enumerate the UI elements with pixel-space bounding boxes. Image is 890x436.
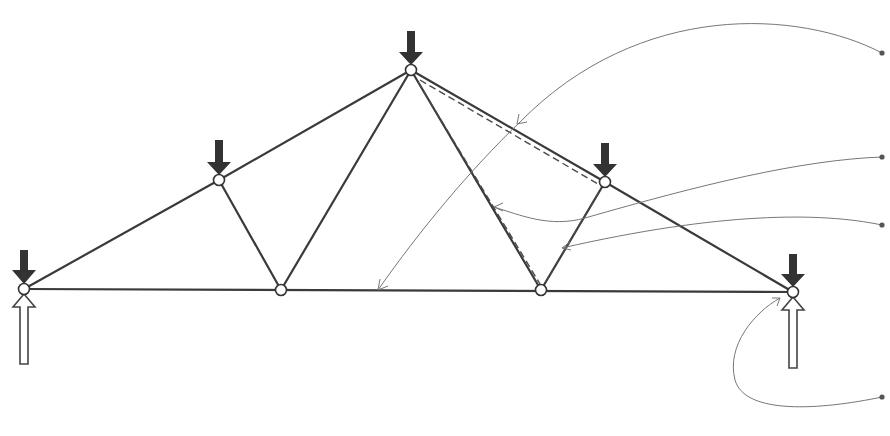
node-F	[600, 177, 611, 188]
node-D	[406, 65, 417, 76]
load-arrow-B-icon	[207, 140, 231, 175]
truss-members	[24, 70, 793, 292]
node-B	[214, 175, 225, 186]
node-C	[276, 285, 287, 296]
reaction-arrow-left-icon	[13, 294, 35, 364]
web-member-CD	[281, 70, 411, 290]
truss-diagram	[0, 0, 890, 436]
top-chord-left-lower	[24, 180, 219, 289]
leader-line-4	[733, 298, 882, 407]
top-chord-right-upper	[411, 70, 605, 182]
callout-dots	[879, 50, 884, 399]
truss-canvas	[0, 0, 890, 436]
leader-line-1	[378, 24, 882, 290]
callout-dot-2	[879, 154, 884, 159]
node-A	[19, 284, 30, 295]
truss-nodes	[19, 65, 799, 298]
load-arrow-D-icon	[399, 31, 423, 65]
leader-line-3	[562, 217, 882, 248]
load-arrow-F-icon	[593, 143, 617, 177]
callout-dot-1	[879, 50, 884, 55]
node-G	[788, 287, 799, 298]
load-arrow-A-icon	[12, 250, 36, 284]
callout-dot-4	[879, 394, 884, 399]
reaction-arrow-right-icon	[782, 297, 804, 368]
highlighted-section-dashed	[418, 80, 600, 284]
node-E	[536, 285, 547, 296]
bottom-chord	[24, 289, 793, 292]
callout-dot-3	[879, 222, 884, 227]
leader-line-2	[494, 157, 882, 222]
load-arrow-G-icon	[781, 254, 805, 287]
top-chord-right-lower	[605, 182, 793, 292]
web-member-EF	[541, 182, 605, 290]
top-chord-left-upper	[219, 70, 411, 180]
support-reactions	[13, 294, 804, 368]
callout-leaders	[378, 24, 882, 407]
leader-arrowhead-1a	[517, 114, 527, 124]
web-member-BC	[219, 180, 281, 290]
